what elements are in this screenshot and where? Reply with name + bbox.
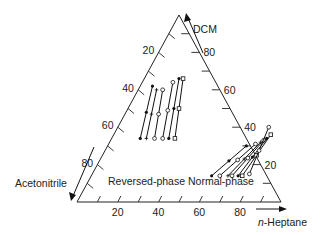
- open-circle-marker: [157, 112, 161, 116]
- acetonitrile-tick-label: 40: [122, 82, 134, 94]
- heptane-tick: [159, 196, 162, 202]
- acetonitrile-tick: [118, 127, 124, 132]
- open-circle-marker: [166, 108, 170, 112]
- heptane-axis-label: n-Heptane: [258, 216, 307, 228]
- normal-phase-label: Normal-phase: [188, 175, 254, 187]
- acetonitrile-tick: [138, 90, 144, 95]
- acetonitrile-tick: [128, 109, 134, 114]
- heptane-tick-label: 40: [153, 206, 165, 218]
- heptane-tick: [220, 196, 223, 202]
- open-square-marker: [181, 77, 185, 81]
- heptane-tick: [179, 196, 182, 202]
- tie-line: [240, 133, 272, 178]
- dcm-tick-label: 60: [224, 84, 236, 96]
- acetonitrile-tick: [159, 52, 165, 57]
- open-circle-marker: [246, 156, 250, 160]
- dcm-axis-label: DCM: [193, 23, 217, 35]
- acetonitrile-tick: [148, 71, 154, 76]
- filled-circle-marker: [177, 77, 180, 80]
- open-circle-marker: [171, 80, 175, 84]
- open-circle-marker: [161, 137, 165, 141]
- reversed-phase-label: Reversed-phase: [108, 175, 185, 187]
- open-square-marker: [177, 107, 181, 111]
- dcm-tick-label: 40: [244, 121, 256, 133]
- dcm-tick-label: 20: [265, 159, 277, 171]
- acetonitrile-tick: [97, 165, 103, 170]
- filled-circle-marker: [251, 156, 254, 159]
- acetonitrile-tick-label: 60: [102, 119, 114, 131]
- open-circle-marker: [257, 149, 261, 153]
- heptane-rest: -Heptane: [264, 216, 307, 228]
- heptane-tick-label: 60: [193, 206, 205, 218]
- tie-line: [153, 88, 165, 140]
- acetonitrile-tick-label: 20: [143, 44, 155, 56]
- tie-line: [145, 88, 159, 140]
- heptane-tick-label: 20: [112, 206, 124, 218]
- filled-circle-marker: [167, 137, 170, 140]
- open-circle-marker: [161, 88, 165, 92]
- tie-line: [218, 142, 257, 178]
- open-circle-marker: [236, 158, 240, 162]
- open-circle-marker: [153, 137, 157, 141]
- heptane-tick: [97, 196, 100, 202]
- filled-circle-marker: [227, 159, 230, 162]
- heptane-tick: [240, 196, 243, 202]
- tie-line: [230, 138, 265, 177]
- heptane-tick: [138, 196, 141, 202]
- ternary-chart: 202040406060808080604020 DCM Acetonitril…: [0, 0, 322, 235]
- filled-circle-marker: [139, 137, 142, 140]
- tick-labels: 202040406060808080604020: [81, 44, 276, 218]
- open-square-marker: [269, 133, 273, 137]
- heptane-tick: [118, 196, 121, 202]
- filled-circle-marker: [145, 111, 148, 114]
- reversed-phaseseries: [139, 77, 185, 141]
- acetonitrile-tick: [87, 183, 93, 188]
- heptane-tick: [199, 196, 202, 202]
- filled-circle-marker: [151, 84, 154, 87]
- heptane-tick: [261, 196, 264, 202]
- acetonitrile-tick: [169, 34, 175, 39]
- open-square-marker: [173, 137, 177, 141]
- heptane-arrow: [256, 206, 287, 212]
- filled-circle-marker: [172, 107, 175, 110]
- acetonitrile-axis-label: Acetonitrile: [15, 177, 67, 189]
- filled-circle-marker: [245, 144, 248, 147]
- acetonitrile-tick: [108, 146, 114, 151]
- dcm-tick-label: 80: [203, 46, 215, 58]
- open-circle-marker: [267, 125, 271, 129]
- heptane-tick-label: 80: [234, 206, 246, 218]
